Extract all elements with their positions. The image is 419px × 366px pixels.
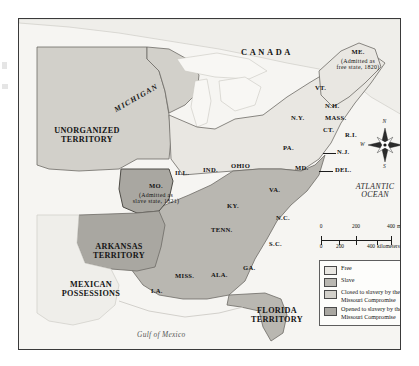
- scale-miles-tick-0: 0: [320, 223, 323, 229]
- map-legend: Free Slave Closed to slavery by theMisso…: [319, 260, 401, 326]
- label-ohio: OHIO: [231, 163, 250, 170]
- scale-km-tick-2: 400: [367, 243, 375, 249]
- label-virginia: VA.: [269, 187, 280, 194]
- label-arkansas-territory: ARKANSASTERRITORY: [93, 243, 145, 260]
- label-pennsylvania: PA.: [283, 145, 294, 152]
- map-frame: CANADA UNORGANIZEDTERRITORY MICHIGAN ARK…: [18, 18, 401, 350]
- legend-label-closed: Closed to slavery by theMissouri Comprom…: [341, 289, 400, 304]
- label-unorganized-territory: UNORGANIZEDTERRITORY: [54, 127, 120, 144]
- label-new-jersey: N.J.: [337, 149, 350, 156]
- legend-swatch-opened: [324, 307, 337, 316]
- label-georgia: GA.: [243, 265, 255, 272]
- scale-km-tick-1: 200: [336, 243, 344, 249]
- edge-artifact: [2, 84, 8, 89]
- legend-label-opened: Opened to slavery by theMissouri Comprom…: [341, 306, 401, 321]
- scale-tick: [356, 236, 357, 245]
- label-gulf-of-mexico: Gulf of Mexico: [137, 331, 186, 339]
- scale-miles-tick-2: 400: [387, 223, 395, 229]
- scale-km-unit: kilometers: [377, 243, 400, 249]
- label-rhode-island: R.I.: [345, 132, 357, 139]
- scale-km-row: 0 200 400 kilometers: [319, 246, 401, 255]
- arkansas-territory-area: [77, 211, 165, 271]
- legend-item-slave: Slave: [324, 277, 401, 287]
- scale-miles-tick-1: 200: [352, 223, 360, 229]
- label-florida-territory: FLORIDATERRITORY: [251, 307, 303, 324]
- label-missouri-note: (Admitted asslave state, 1821): [133, 192, 179, 204]
- label-missouri: MO.: [149, 183, 163, 190]
- compass-west-label: W: [360, 141, 365, 147]
- leader-new-jersey: [323, 153, 336, 154]
- scale-miles-row: 0 200 400 miles: [319, 225, 401, 235]
- label-north-carolina: N.C.: [276, 215, 290, 222]
- legend-item-free: Free: [324, 265, 401, 275]
- label-kentucky: KY.: [227, 203, 239, 210]
- legend-swatch-slave: [324, 278, 337, 287]
- legend-item-closed: Closed to slavery by theMissouri Comprom…: [324, 289, 401, 304]
- label-canada: CANADA: [241, 49, 293, 58]
- label-south-carolina: S.C.: [269, 241, 282, 248]
- label-massachusetts: MASS.: [325, 115, 346, 122]
- label-alabama: ALA.: [211, 272, 228, 279]
- map-page: CANADA UNORGANIZEDTERRITORY MICHIGAN ARK…: [0, 0, 419, 366]
- legend-label-free: Free: [341, 265, 352, 273]
- legend-item-opened: Opened to slavery by theMissouri Comprom…: [324, 306, 401, 321]
- compass-south-label: S: [383, 163, 386, 169]
- edge-artifact: [2, 62, 7, 69]
- label-mexican-possessions: MEXICANPOSSESSIONS: [62, 281, 120, 298]
- leader-delaware: [319, 171, 333, 172]
- label-maine-note: (Admitted asfree state, 1820): [336, 58, 379, 70]
- compass-north-label: N: [383, 118, 387, 124]
- label-vermont: VT.: [315, 85, 326, 92]
- legend-swatch-closed: [324, 290, 337, 299]
- compass-rose: N E S W: [359, 119, 401, 171]
- label-new-york: N.Y.: [291, 115, 304, 122]
- label-maine: ME.: [351, 49, 364, 56]
- label-illinois: ILL.: [175, 170, 189, 177]
- label-indiana: IND.: [203, 167, 218, 174]
- label-louisiana: LA.: [151, 288, 163, 295]
- compass-icon: [359, 119, 401, 171]
- legend-swatch-free: [324, 266, 337, 275]
- label-delaware: DEL.: [335, 167, 351, 174]
- unorganized-territory-area: [37, 47, 171, 171]
- label-mississippi: MISS.: [175, 273, 194, 280]
- label-atlantic-ocean: ATLANTICOCEAN: [356, 183, 395, 200]
- label-connecticut: CT.: [323, 127, 334, 134]
- label-maryland: MD.: [295, 165, 309, 172]
- scale-miles-unit: miles: [397, 223, 401, 229]
- legend-label-slave: Slave: [341, 277, 355, 285]
- label-new-hampshire: N.H.: [325, 103, 339, 110]
- scale-bar: 0 200 400 miles 0 200 400 kilometers: [319, 225, 401, 255]
- scale-km-tick-0: 0: [320, 243, 323, 249]
- label-tennessee: TENN.: [211, 227, 232, 234]
